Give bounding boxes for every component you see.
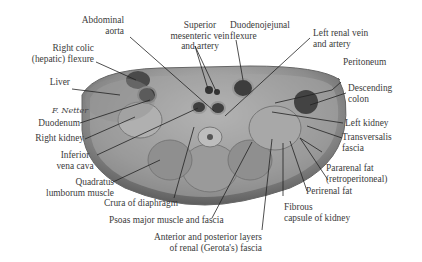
label-renal-fascia: Anterior and posterior layers of renal (… xyxy=(154,232,262,253)
label-psoas-major: Psoas major muscle and fascia xyxy=(109,215,224,226)
label-right-kidney: Right kidney xyxy=(35,133,84,144)
label-inferior-vena-cava: Inferior vena cava xyxy=(45,150,105,171)
label-crura-of-diaphragm: Crura of diaphragm xyxy=(104,198,178,209)
label-descending-colon: Descending colon xyxy=(348,83,392,104)
label-liver: Liver xyxy=(50,77,70,88)
label-quadratus-lumborum: Quadratus lumborum muscle xyxy=(46,177,114,198)
label-peritoneum: Peritoneum xyxy=(343,57,386,68)
label-left-renal-vein-artery: Left renal vein and artery xyxy=(313,28,368,49)
label-left-kidney: Left kidney xyxy=(345,118,388,129)
label-right-colic-flexure: Right colic (hepatic) flexure xyxy=(32,43,94,64)
label-transversalis-fascia: Transversalis fascia xyxy=(342,132,392,153)
label-superior-mesenteric: Superior mesenteric vein and artery xyxy=(164,20,236,52)
label-pararenal-fat: Pararenal fat (retroperitoneal) xyxy=(326,163,387,184)
label-perirenal-fat: Perirenal fat xyxy=(306,186,352,197)
label-duodenum: Duodenum xyxy=(38,118,80,129)
label-duodenojejunal-flexure: Duodenojejunal flexure xyxy=(230,20,290,41)
label-abdominal-aorta: Abdominal aorta xyxy=(82,15,124,36)
label-fibrous-capsule: Fibrous capsule of kidney xyxy=(284,202,350,223)
netter-signature: F. Netter xyxy=(51,106,89,115)
